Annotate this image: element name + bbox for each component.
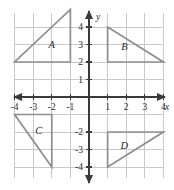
x-tick-label: -3: [29, 102, 37, 112]
triangle-a: [15, 10, 71, 63]
y-tick-label: -3: [75, 145, 83, 155]
x-axis-arrow-right: [157, 93, 166, 101]
triangle-label-c: C: [35, 125, 43, 136]
y-axis-arrow-up: [85, 10, 93, 19]
y-tick-label: 1: [78, 75, 83, 85]
triangle-label-b: B: [121, 41, 128, 52]
y-tick-label: 3: [78, 40, 83, 50]
y-axis-arrow-down: [85, 175, 93, 184]
y-tick-label: 4: [78, 22, 83, 32]
y-tick-label: -4: [75, 162, 83, 172]
y-tick-label: 2: [78, 57, 83, 67]
x-tick-label: 2: [124, 102, 129, 112]
coordinate-plane-svg: ABCD -4-3-2-112344321-2-3-4 x y: [0, 0, 174, 190]
x-tick-label: 3: [142, 102, 147, 112]
axes: [13, 10, 166, 184]
x-tick-label: -2: [48, 102, 56, 112]
x-axis-label: x: [164, 102, 170, 112]
triangle-label-a: A: [48, 39, 56, 50]
x-tick-label: -1: [66, 102, 74, 112]
y-axis-label: y: [95, 12, 101, 22]
y-tick-label: -2: [75, 127, 83, 137]
x-tick-label: -4: [11, 102, 19, 112]
triangle-label-d: D: [120, 140, 129, 151]
coordinate-plane-figure: ABCD -4-3-2-112344321-2-3-4 x y: [0, 0, 174, 190]
x-tick-label: 1: [105, 102, 110, 112]
